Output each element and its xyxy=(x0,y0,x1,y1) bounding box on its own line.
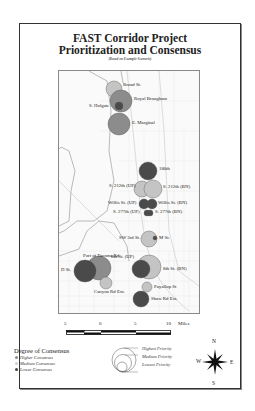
circle-shaw-rd[interactable] xyxy=(133,291,149,307)
project-circles xyxy=(74,81,162,307)
label-s212th-up: S. 212th (UP) xyxy=(109,184,136,189)
legend-medium-consensus: Medium Consensus xyxy=(20,361,55,366)
compass-s: S xyxy=(212,380,215,386)
circle-puyallup-st[interactable] xyxy=(142,282,152,292)
map-title-line1: FAST Corridor Project xyxy=(20,32,240,44)
label-d-st: D St. xyxy=(61,268,71,273)
consensus-legend-title: Degree of Consensus xyxy=(14,347,69,354)
label-s-holgate: S. Holgate xyxy=(89,104,109,109)
legend-lowest-priority: Lowest Priority xyxy=(142,362,170,367)
label-8th-st-bn: 8th St. (BN) xyxy=(163,267,187,272)
legend-higher-consensus: Higher Consensus xyxy=(20,355,53,360)
label-broad-st: Broad St. xyxy=(123,83,141,88)
circle-s212th-bn[interactable] xyxy=(144,180,162,198)
circle-canyon-rd[interactable] xyxy=(100,277,112,289)
circle-m-st[interactable] xyxy=(153,236,157,240)
map-title-line2: Prioritization and Consensus xyxy=(20,44,240,56)
compass-star-icon xyxy=(201,348,229,376)
legend-medium-consensus-label: Medium Consensus xyxy=(20,361,55,366)
map-subtitle: (Based on Example Scenario) xyxy=(20,57,240,61)
circle-e-marginal[interactable] xyxy=(108,113,130,135)
legend-lower-consensus-label: Lower Consensus xyxy=(20,367,52,372)
scale-unit: Miles xyxy=(178,321,189,326)
scale-tick-0: 0 xyxy=(99,321,102,326)
label-canyon-rd: Canyon Rd Ext. xyxy=(94,290,125,295)
compass-n: N xyxy=(212,338,216,344)
label-s277th-bn: S. 277th (BN) xyxy=(155,210,182,215)
label-willis-up: Willis St. (UP) xyxy=(108,201,136,206)
label-8th-st-up: 8th St. (UP) xyxy=(111,255,134,260)
label-s212th-bn: S. 212th (BN) xyxy=(163,185,190,190)
scale-tick-5: 5 xyxy=(134,321,137,326)
priority-circles-graphic xyxy=(110,345,146,375)
circle-180th[interactable] xyxy=(139,162,157,180)
label-180th: 180th xyxy=(159,167,170,172)
compass-e: E xyxy=(230,359,233,365)
label-willis-bn: Willis St. (BN) xyxy=(158,201,187,206)
medium-consensus-swatch xyxy=(15,362,18,365)
label-royal-brougham: Royal Brougham xyxy=(134,97,167,102)
legend-lower-consensus: Lower Consensus xyxy=(20,367,52,372)
scale-tick-10: 10 xyxy=(166,321,171,326)
map-panel: Broad St. Royal Brougham S. Holgate E. M… xyxy=(58,70,200,314)
lower-consensus-swatch xyxy=(15,368,18,371)
label-s277th-up: S. 277th (UP) xyxy=(113,210,140,215)
legend-higher-consensus-label: Higher Consensus xyxy=(20,355,53,360)
legend-highest-priority: Highest Priority xyxy=(142,346,171,351)
label-e-marginal: E. Marginal xyxy=(132,121,155,126)
circle-s-holgate[interactable] xyxy=(115,102,123,110)
label-puyallup-st: Puyallup St xyxy=(154,285,176,290)
circle-d-st[interactable] xyxy=(74,260,96,282)
map-canvas xyxy=(59,71,199,313)
label-shaw-rd: Shaw Rd Ext. xyxy=(151,297,178,302)
circle-willis-bn[interactable] xyxy=(147,199,157,209)
legend-medium-priority: Medium Priority xyxy=(142,354,172,359)
scale-bar-graphic xyxy=(66,330,172,336)
circle-s277th-bn[interactable] xyxy=(147,210,153,216)
higher-consensus-swatch xyxy=(15,356,18,359)
label-m-st: M St. xyxy=(159,236,170,241)
scale-tick-5-left: 5 xyxy=(64,321,67,326)
circle-8th-st-up[interactable] xyxy=(132,260,150,278)
label-sw-3rd-st: SW 3rd St. xyxy=(119,236,140,241)
